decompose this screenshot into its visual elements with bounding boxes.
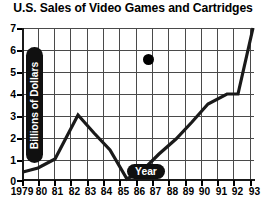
x-tick-label-86: 86 (131, 186, 148, 197)
x-axis-title: Year (127, 164, 165, 179)
x-axis-title-text: Year (135, 166, 157, 177)
x-tick-label-84: 84 (98, 186, 115, 197)
chart-container: U.S. Sales of Video Games and Cartridges… (0, 0, 266, 202)
x-tick-label-83: 83 (82, 186, 99, 197)
x-tick-label-89: 89 (180, 186, 197, 197)
x-tick-label-91: 91 (213, 186, 230, 197)
x-tick-label-92: 92 (229, 186, 246, 197)
x-tick-label-87: 87 (147, 186, 164, 197)
x-tick-label-88: 88 (164, 186, 181, 197)
black-dot-marker (143, 54, 154, 65)
x-tick-label-80: 80 (33, 186, 50, 197)
x-tick-label-82: 82 (66, 186, 83, 197)
x-tick-label-85: 85 (115, 186, 132, 197)
y-axis-title: Billions of Dollars (26, 47, 43, 163)
x-tick-label-93: 93 (245, 186, 264, 197)
y-axis-title-text: Billions of Dollars (29, 61, 40, 149)
x-tick-label-90: 90 (196, 186, 213, 197)
x-tick-label-81: 81 (49, 186, 66, 197)
